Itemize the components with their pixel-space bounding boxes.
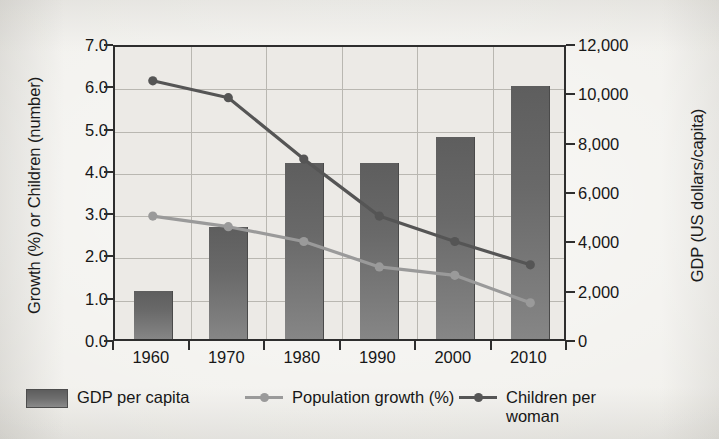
tickmark-bottom [263,341,265,350]
data-point-1990 [375,262,384,271]
tickmark-left [104,298,113,300]
tickmark-bottom [188,341,190,350]
legend-item-population-growth[interactable]: Population growth (%) [245,388,454,407]
tickmark-bottom [414,341,416,350]
x-tick-label-1960: 1960 [111,349,191,366]
y-tick-label-right: 12,000 [578,37,628,54]
line-series-layer [115,47,566,341]
data-point-1970 [224,222,233,231]
tickmark-bottom [339,341,341,350]
data-point-1980 [299,155,308,164]
tickmark-right [566,44,575,46]
legend-line-marker-icon [459,389,497,406]
legend-bar-swatch-icon [26,389,68,408]
y-tick-label-right: 4,000 [578,234,619,251]
chart-legend: GDP per capitaPopulation growth (%)Child… [0,382,719,439]
y-axis-ticks-left: 0.01.02.03.04.05.06.07.0 [26,0,108,439]
line-population-growth [153,216,531,303]
tickmark-left [104,44,113,46]
x-tick-label-1990: 1990 [337,349,417,366]
data-point-1960 [148,212,157,221]
y-tick-label-right: 2,000 [578,284,619,301]
tickmark-right [566,93,575,95]
chart-figure: Growth (%) or Children (number) GDP (US … [0,0,719,439]
plot-inner [115,47,564,339]
legend-line-dot [260,393,269,402]
y-tick-label-right: 10,000 [578,86,628,103]
tickmark-right [566,241,575,243]
data-point-1960 [148,76,157,85]
x-tick-label-1970: 1970 [186,349,266,366]
legend-label: Population growth (%) [292,388,454,407]
tickmark-left [104,213,113,215]
data-point-2000 [450,237,459,246]
tickmark-right [566,291,575,293]
tickmark-right [566,192,575,194]
tickmark-left [104,86,113,88]
tickmark-left [104,129,113,131]
tickmark-bottom [490,341,492,350]
legend-label: Children per woman [506,388,596,426]
data-point-2010 [526,260,535,269]
x-tick-label-2010: 2010 [488,349,568,366]
y-tick-label-right: 8,000 [578,136,619,153]
legend-line-marker-icon [245,389,283,406]
line-children-per-woman [153,81,531,265]
y-axis-label-right: GDP (US dollars/capita) [688,66,707,326]
tickmark-left [104,171,113,173]
tickmark-bottom [112,341,114,350]
y-tick-label-right: 6,000 [578,185,619,202]
y-tick-label-right: 0 [578,333,587,350]
legend-item-children-per-woman[interactable]: Children per woman [459,388,596,426]
x-tick-label-2000: 2000 [413,349,493,366]
legend-line-dot [474,393,483,402]
tickmark-bottom [565,341,567,350]
plot-area [113,45,566,341]
tickmark-right [566,340,575,342]
y-axis-ticks-right: 02,0004,0006,0008,00010,00012,000 [578,0,664,439]
data-point-1970 [224,93,233,102]
data-point-1980 [299,237,308,246]
data-point-1990 [375,212,384,221]
data-point-2000 [450,271,459,280]
data-point-2010 [526,298,535,307]
tickmark-right [566,143,575,145]
x-tick-label-1980: 1980 [262,349,342,366]
legend-item-gdp-per-capita[interactable]: GDP per capita [26,388,190,408]
legend-label: GDP per capita [77,388,190,407]
tickmark-left [104,255,113,257]
